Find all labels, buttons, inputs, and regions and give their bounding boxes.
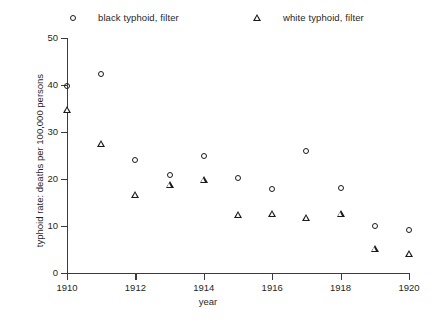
triangle-marker-icon — [97, 140, 105, 147]
y-axis-title: typhoid rate: deaths per 100,000 persons — [34, 46, 45, 276]
x-tick-label: 1916 — [252, 282, 292, 293]
x-tick-mark — [409, 274, 410, 280]
triangle-marker-icon — [234, 211, 242, 218]
y-tick-mark — [61, 38, 67, 39]
triangle-marker-icon — [371, 245, 379, 252]
x-tick-mark — [204, 274, 205, 280]
triangle-marker-icon — [63, 106, 71, 113]
circle-marker-icon — [64, 83, 70, 89]
circle-marker-icon — [98, 71, 104, 77]
circle-marker-icon — [269, 186, 275, 192]
y-tick-mark — [61, 226, 67, 227]
data-point — [97, 133, 105, 151]
data-point — [268, 203, 276, 221]
x-tick-mark — [272, 274, 273, 280]
data-point — [201, 145, 207, 163]
data-point — [269, 178, 275, 196]
triangle-marker-icon — [405, 250, 413, 257]
data-point — [132, 149, 138, 167]
triangle-marker-icon — [302, 214, 310, 221]
circle-marker-icon — [338, 185, 344, 191]
data-point — [234, 204, 242, 222]
x-tick-label: 1914 — [184, 282, 224, 293]
circle-marker-icon — [235, 175, 241, 181]
x-axis-title: year — [178, 296, 238, 307]
circle-marker-icon — [406, 227, 412, 233]
plot-area: 01020304050 191019121914191619181920 typ… — [0, 0, 434, 323]
x-tick-label: 1920 — [389, 282, 429, 293]
circle-marker-icon — [132, 157, 138, 163]
y-tick-mark — [61, 179, 67, 180]
x-tick-label: 1912 — [115, 282, 155, 293]
circle-marker-icon — [201, 153, 207, 159]
triangle-marker-icon — [337, 210, 345, 217]
data-point — [166, 174, 174, 192]
data-point — [98, 63, 104, 81]
triangle-marker-icon — [200, 176, 208, 183]
x-tick-mark — [135, 274, 136, 280]
typhoid-rate-scatter-chart: black typhoid, filter white typhoid, fil… — [0, 0, 434, 323]
data-point — [372, 215, 378, 233]
data-point — [406, 219, 412, 237]
x-tick-mark — [341, 274, 342, 280]
data-point — [303, 140, 309, 158]
circle-marker-icon — [303, 148, 309, 154]
y-tick-mark — [61, 132, 67, 133]
x-tick-label: 1918 — [321, 282, 361, 293]
circle-marker-icon — [372, 223, 378, 229]
data-point — [371, 238, 379, 256]
x-tick-mark — [67, 274, 68, 280]
data-point — [405, 243, 413, 261]
data-point — [337, 203, 345, 221]
data-point — [131, 184, 139, 202]
triangle-marker-icon — [166, 181, 174, 188]
data-point — [235, 167, 241, 185]
x-tick-label: 1910 — [47, 282, 87, 293]
data-point — [63, 99, 71, 117]
x-axis-line — [67, 273, 410, 274]
triangle-marker-icon — [131, 191, 139, 198]
data-point — [302, 207, 310, 225]
data-point — [200, 169, 208, 187]
data-point — [338, 177, 344, 195]
y-axis-line — [67, 38, 68, 274]
data-point — [64, 75, 70, 93]
y-tick-label: 50 — [32, 32, 58, 43]
triangle-marker-icon — [268, 210, 276, 217]
